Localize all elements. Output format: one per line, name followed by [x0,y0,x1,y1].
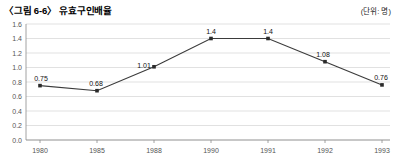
y-axis-tick-label: 0.4 [12,108,22,115]
data-point-label: 1.01 [137,62,151,69]
x-axis-tick-label: 1991 [260,147,276,154]
y-axis-tick-label: 0.0 [12,137,22,144]
y-axis-tick-label: 0.8 [12,79,22,86]
data-point-marker [209,37,213,41]
x-axis-tick-label: 1980 [32,147,48,154]
x-axis-tick-labels: 1980198519881990199119921993 [32,140,390,154]
x-axis-tick-label: 1993 [374,147,390,154]
chart-plot-area: 0.00.20.40.60.81.01.21.41.6 198019851988… [0,18,396,168]
y-axis-tick-label: 1.4 [12,35,22,42]
x-axis-tick-label: 1985 [89,147,105,154]
line-chart: 0.00.20.40.60.81.01.21.41.6 198019851988… [0,18,396,168]
data-point-marker [323,60,327,64]
x-axis-tick-label: 1992 [317,147,333,154]
y-axis-tick-labels: 0.00.20.40.60.81.01.21.41.6 [12,21,22,144]
y-axis-tick-label: 1.0 [12,64,22,71]
figure-title: 〈그림 6-6〉 유효구인배율 [4,3,112,17]
data-point-label: 0.76 [374,74,388,81]
data-point-label: 1.4 [263,28,273,35]
data-point-label: 0.68 [89,80,103,87]
data-point-label: 1.4 [206,28,216,35]
data-point-marker [380,83,384,87]
unit-label: (단위: 명) [361,5,391,16]
gridlines-group [26,24,390,140]
figure-container: 〈그림 6-6〉 유효구인배율 (단위: 명) 0.00.20.40.60.81… [0,0,396,168]
x-axis-tick-label: 1990 [203,147,219,154]
data-point-label: 1.08 [316,51,330,58]
data-point-label: 0.75 [34,75,48,82]
y-axis-tick-label: 0.2 [12,122,22,129]
data-point-marker [95,89,99,93]
x-axis-tick-label: 1988 [146,147,162,154]
y-axis-tick-label: 0.6 [12,93,22,100]
data-point-marker [266,37,270,41]
y-axis-tick-label: 1.6 [12,21,22,28]
data-point-marker [38,84,42,88]
data-point-marker [152,65,156,69]
y-axis-tick-label: 1.2 [12,50,22,57]
data-point-labels: 0.750.681.011.41.41.080.76 [34,28,388,87]
